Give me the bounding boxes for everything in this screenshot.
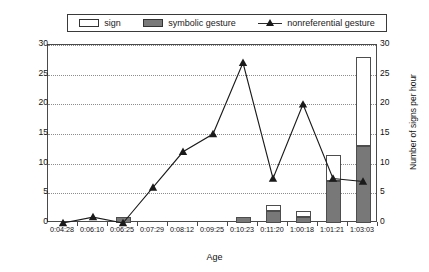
line-data-point-triangle-marker xyxy=(329,174,337,181)
y-axis-right-tick-label: 30 xyxy=(380,39,398,48)
y-axis-right-tick-label: 10 xyxy=(380,158,398,167)
x-axis-tick-mark xyxy=(257,222,258,226)
legend-label-symbolic-gesture: symbolic gesture xyxy=(168,19,236,28)
filled-bar-swatch-icon xyxy=(143,19,163,27)
x-axis-tick-label: 0:08:12 xyxy=(170,226,194,233)
figure: sign symbolic gesture nonreferential ges… xyxy=(0,0,429,272)
x-axis-tick-label: 0:11:20 xyxy=(260,226,283,233)
line-data-point-triangle-marker xyxy=(239,59,247,66)
y-axis-right-tick-label: 15 xyxy=(380,128,398,137)
line-data-point-triangle-marker xyxy=(179,148,187,155)
open-bar-swatch-icon xyxy=(79,19,99,27)
y-axis-left-tick-label: 20 xyxy=(30,98,48,107)
x-axis-tick-label: 1:03:03 xyxy=(350,226,374,233)
x-axis-tick-mark xyxy=(77,222,78,226)
x-axis-tick-label: 1:00:18 xyxy=(290,226,314,233)
y-axis-left-tick-label: 30 xyxy=(30,39,48,48)
line-data-point-triangle-marker xyxy=(209,130,217,137)
x-axis-tick-label: 0:06:25 xyxy=(110,226,134,233)
legend-label-nonreferential-gesture: nonreferential gesture xyxy=(287,19,375,28)
chart-legend: sign symbolic gesture nonreferential ges… xyxy=(67,14,387,32)
x-axis-tick-mark xyxy=(287,222,288,226)
x-axis-tick-label: 0:10:23 xyxy=(230,226,254,233)
nonreferential-gesture-line xyxy=(48,45,378,223)
line-data-point-triangle-marker xyxy=(299,100,307,107)
right-axis-title: Number of signs per hour xyxy=(408,42,418,202)
x-axis-tick-mark xyxy=(227,222,228,226)
y-axis-left-tick-label: 5 xyxy=(30,187,48,196)
legend-item-sign: sign xyxy=(79,19,121,28)
x-axis-tick-label: 0:07:29 xyxy=(140,226,164,233)
legend-item-nonreferential-gesture: nonreferential gesture xyxy=(258,19,375,28)
y-axis-right-tick-label: 20 xyxy=(380,98,398,107)
x-axis-tick-mark xyxy=(197,222,198,226)
x-axis-tick-mark xyxy=(377,222,378,226)
x-axis-tick-mark xyxy=(317,222,318,226)
y-axis-right-tick-label: 0 xyxy=(380,217,398,226)
x-axis-tick-label: 0:06:10 xyxy=(80,226,104,233)
x-axis-tick-mark xyxy=(107,222,108,226)
y-axis-right-tick-label: 5 xyxy=(380,187,398,196)
x-axis-tick-mark xyxy=(137,222,138,226)
legend-label-sign: sign xyxy=(104,19,121,28)
y-axis-left-tick-label: 25 xyxy=(30,69,48,78)
x-axis-tick-label: 0:04:28 xyxy=(50,226,74,233)
y-axis-left-tick-label: 15 xyxy=(30,128,48,137)
x-axis-tick-mark xyxy=(347,222,348,226)
y-axis-right-tick-label: 25 xyxy=(380,69,398,78)
x-axis-tick-label: 0:09:25 xyxy=(200,226,224,233)
line-data-point-triangle-marker xyxy=(269,174,277,181)
y-axis-left-tick-label: 10 xyxy=(30,158,48,167)
line-data-point-triangle-marker xyxy=(89,213,97,220)
x-axis-tick-label: 1:01:21 xyxy=(320,226,344,233)
legend-item-symbolic-gesture: symbolic gesture xyxy=(143,19,236,28)
y-axis-left-tick-label: 0 xyxy=(30,217,48,226)
x-axis-tick-mark xyxy=(167,222,168,226)
x-axis-title: Age xyxy=(0,252,429,262)
line-triangle-marker-icon xyxy=(258,19,282,27)
plot-area xyxy=(47,44,377,222)
